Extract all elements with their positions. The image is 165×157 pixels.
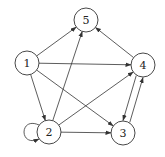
graph-canvas: 12345 xyxy=(0,0,165,157)
edge-4-to-5 xyxy=(95,27,133,57)
edge-3-to-4 xyxy=(130,77,143,122)
edge-1-to-3 xyxy=(37,70,114,126)
edge-1-to-5 xyxy=(37,27,77,56)
edge-1-to-4 xyxy=(39,63,131,65)
node-5: 5 xyxy=(74,8,98,32)
node-label: 5 xyxy=(83,14,90,27)
edge-1-to-2 xyxy=(31,74,46,120)
edge-2-to-3 xyxy=(61,132,111,133)
edge-2-to-4 xyxy=(59,72,133,125)
node-label: 2 xyxy=(46,126,53,139)
node-3: 3 xyxy=(111,121,135,145)
node-4: 4 xyxy=(131,53,155,77)
edge-4-to-3 xyxy=(123,76,136,121)
nodes-layer: 12345 xyxy=(15,8,155,145)
node-label: 4 xyxy=(140,59,147,72)
graph-svg: 12345 xyxy=(0,0,165,157)
node-1: 1 xyxy=(15,51,39,75)
node-label: 3 xyxy=(120,127,127,140)
node-2: 2 xyxy=(37,120,61,144)
node-label: 1 xyxy=(24,57,31,70)
edge-2-to-5 xyxy=(53,31,82,120)
